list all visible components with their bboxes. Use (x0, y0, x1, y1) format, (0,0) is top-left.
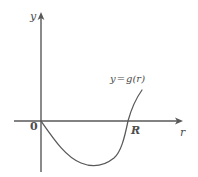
curve-label-rhs: g(r) (126, 73, 145, 84)
function-curve (41, 90, 142, 166)
origin-label: 0 (30, 121, 38, 132)
curve-label: y=g(r) (110, 74, 145, 84)
y-axis-label: y (30, 11, 36, 22)
curve-label-lhs: y (110, 73, 116, 84)
root-label-R: R (131, 125, 140, 136)
r-axis-label: r (180, 127, 185, 138)
curve-label-equals: = (116, 73, 126, 84)
graph-figure: y r 0 R y=g(r) (0, 0, 198, 177)
graph-canvas (0, 0, 198, 177)
